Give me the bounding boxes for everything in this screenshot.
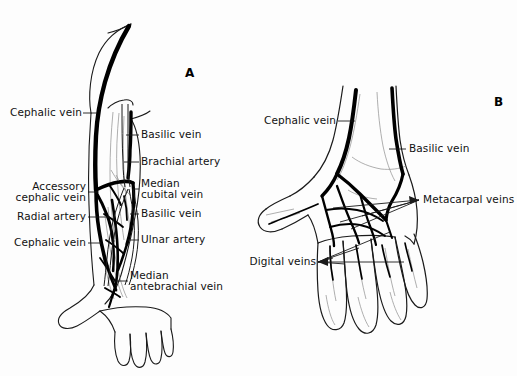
vein-b-metacarpal-1 [322,196,334,246]
label-median-antebrachial-line2: antebrachial vein [130,281,223,293]
label-radial-artery: Radial artery [6,211,86,223]
leader-b-digital-c [318,232,390,262]
label-b-cephalic-vein: Cephalic vein [258,115,336,127]
arrowhead-digital [318,257,328,266]
label-median-cubital-line2: cubital vein [141,189,203,201]
label-accessory-cephalic-line2: cephalic vein [6,192,86,204]
label-b-digital-veins: Digital veins [238,256,316,268]
vein-b-thumb [269,204,318,224]
label-cephalic-vein-lower: Cephalic vein [6,237,86,249]
anatomy-figure: Cephalic vein Accessory cephalic vein Ra… [0,0,517,376]
vein-b-metacarpal-4 [386,220,392,238]
label-cephalic-vein-upper: Cephalic vein [6,107,82,119]
label-b-metacarpal-veins: Metacarpal veins [423,194,514,206]
panel-label-b: B [494,95,503,109]
label-ulnar-artery: Ulnar artery [141,234,205,246]
vein-b-basilic [392,88,403,174]
label-basilic-vein-upper: Basilic vein [141,129,201,141]
vein-b-cephalic-continuation [322,174,337,196]
vein-b-digital-3 [382,245,390,277]
label-basilic-vein-lower: Basilic vein [141,208,201,220]
arrowhead-metacarpal [409,196,419,204]
vein-b-digital-4 [405,243,412,271]
vein-median-cubital [96,181,133,190]
label-brachial-artery: Brachial artery [141,156,220,168]
vein-b-metacarpal-2 [337,186,359,243]
panel-label-a: A [185,66,194,80]
label-b-basilic-vein: Basilic vein [409,143,469,155]
leader-b-metacarpal-c [351,200,419,229]
